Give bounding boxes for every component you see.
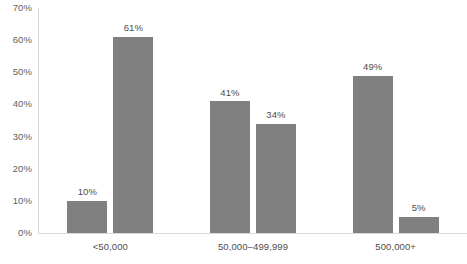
y-axis-tick-label: 40%	[13, 100, 32, 110]
bar[interactable]	[113, 37, 153, 233]
x-axis-category-label: 500,000+	[375, 242, 416, 252]
y-axis-tick-label: 50%	[13, 68, 32, 78]
bar[interactable]	[399, 217, 439, 233]
bar-group: 10%61%	[39, 8, 182, 233]
y-axis-tick-label: 60%	[13, 35, 32, 45]
x-axis: <50,00050,000–499,999500,000+	[39, 238, 467, 262]
bar-value-label: 10%	[78, 187, 97, 197]
y-axis-tick-label: 70%	[13, 3, 32, 13]
bar-slot: 49%	[353, 8, 393, 233]
bar-value-label: 41%	[220, 88, 239, 98]
y-axis-tick-label: 20%	[13, 164, 32, 174]
y-axis-tick-label: 10%	[13, 196, 32, 206]
bar[interactable]	[67, 201, 107, 233]
bar[interactable]	[353, 76, 393, 234]
bar[interactable]	[256, 124, 296, 233]
bar-group: 49%5%	[324, 8, 467, 233]
bar-slot: 5%	[399, 8, 439, 233]
y-axis-tick-label: 30%	[13, 132, 32, 142]
bar-value-label: 49%	[363, 62, 382, 72]
y-axis-tick-label: 0%	[18, 228, 32, 238]
bar-slot: 34%	[256, 8, 296, 233]
bar-slot: 61%	[113, 8, 153, 233]
bar-slot: 41%	[210, 8, 250, 233]
x-axis-category-label: 50,000–499,999	[218, 242, 288, 252]
plot-area: 10%61%41%34%49%5%	[39, 8, 467, 233]
bar-value-label: 34%	[266, 110, 285, 120]
x-axis-category-label: <50,000	[93, 242, 128, 252]
bar[interactable]	[210, 101, 250, 233]
bar-value-label: 5%	[412, 203, 426, 213]
bar-chart: 0%10%20%30%40%50%60%70% 10%61%41%34%49%5…	[0, 0, 467, 264]
bar-slot: 10%	[67, 8, 107, 233]
y-axis: 0%10%20%30%40%50%60%70%	[0, 0, 36, 264]
x-axis-line	[38, 233, 467, 234]
bar-value-label: 61%	[124, 23, 143, 33]
bar-group: 41%34%	[182, 8, 325, 233]
